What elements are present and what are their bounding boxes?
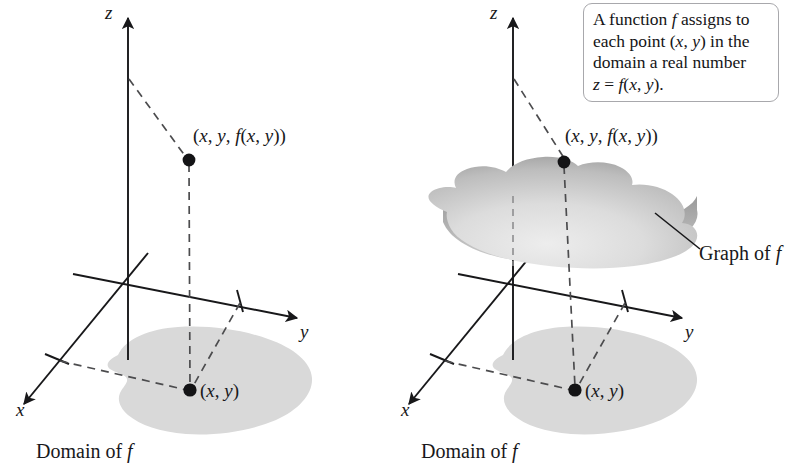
callout-line-3: domain a real number bbox=[593, 52, 771, 74]
right-z-to-point-dash bbox=[514, 79, 564, 158]
left-lower-point bbox=[183, 383, 196, 396]
left-domain-label: Domain of f bbox=[36, 441, 133, 461]
callout-line-2: each point (x, y) in the bbox=[593, 31, 771, 53]
right-y-axis-tick bbox=[622, 290, 628, 312]
left-y-axis-label: y bbox=[300, 322, 308, 341]
right-domain-label: Domain of f bbox=[421, 441, 518, 461]
left-z-axis-label: z bbox=[105, 3, 112, 22]
graph-of-f-label: Graph of f bbox=[699, 243, 781, 263]
right-lower-point bbox=[568, 383, 581, 396]
right-upper-point-label: (x, y, f(x, y)) bbox=[565, 126, 658, 145]
right-surface-top bbox=[428, 157, 697, 269]
left-z-to-point-dash bbox=[129, 79, 188, 160]
right-z-axis-label: z bbox=[490, 3, 497, 22]
callout-line-1: A function f assigns to bbox=[593, 9, 771, 31]
left-upper-point bbox=[183, 154, 196, 167]
right-lower-point-label: (x, y) bbox=[585, 381, 624, 400]
left-lower-point-label: (x, y) bbox=[200, 381, 239, 400]
left-upper-point-label: (x, y, f(x, y)) bbox=[193, 126, 286, 145]
left-panel-graphics bbox=[24, 18, 312, 434]
left-y-axis-tick bbox=[237, 290, 243, 312]
left-y-axis bbox=[73, 274, 297, 318]
right-y-axis-label: y bbox=[685, 322, 693, 341]
right-x-axis-label: x bbox=[401, 400, 409, 419]
figure-canvas: z y x (x, y, f(x, y)) (x, y) Domain of f… bbox=[0, 0, 785, 475]
left-vertical-dash bbox=[189, 164, 190, 387]
left-x-axis-label: x bbox=[16, 400, 24, 419]
right-upper-point bbox=[558, 156, 571, 169]
callout-line-4: z = f(x, y). bbox=[593, 74, 771, 96]
explanation-callout: A function f assigns to each point (x, y… bbox=[583, 3, 779, 102]
